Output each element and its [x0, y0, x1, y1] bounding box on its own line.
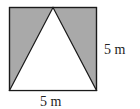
right-side-label: 5 m — [104, 42, 126, 57]
square-triangle-diagram: 5 m 5 m — [0, 0, 140, 109]
bottom-side-label: 5 m — [40, 94, 62, 109]
